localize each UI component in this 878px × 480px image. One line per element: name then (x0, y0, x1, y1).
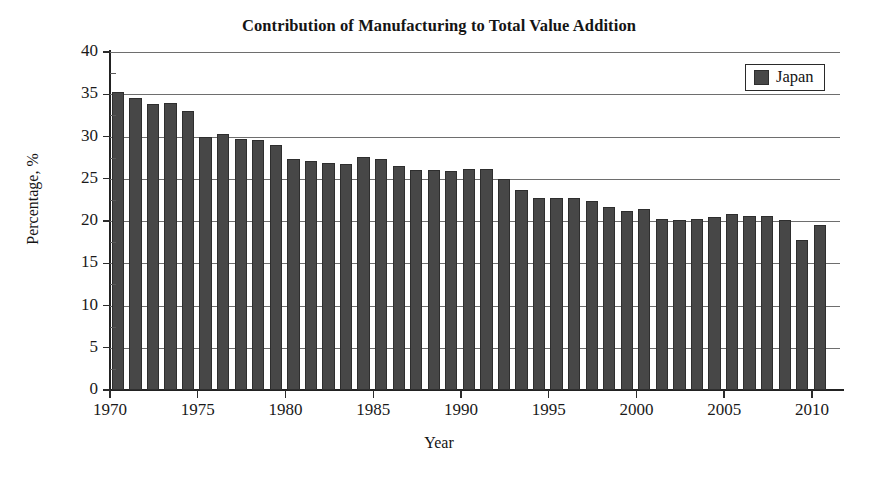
x-tick-label: 1980 (245, 400, 325, 420)
y-tick-label-wrap: 10 (50, 295, 98, 315)
y-tick-15 (103, 263, 110, 264)
y-tick-35 (103, 94, 110, 95)
bar (708, 217, 720, 390)
bar (410, 170, 422, 390)
bar (726, 214, 738, 390)
bar (586, 201, 598, 390)
bar (603, 207, 615, 390)
chart-legend: Japan (745, 64, 825, 91)
y-tick-5 (103, 347, 110, 348)
bar (796, 240, 808, 390)
x-tick-label: 1990 (421, 400, 501, 420)
bar (673, 220, 685, 390)
gridline-40 (110, 52, 840, 53)
bar (217, 134, 229, 390)
bar (428, 170, 440, 390)
y-axis-title: Percentage, % (24, 99, 42, 299)
y-tick-30 (103, 136, 110, 137)
bar (445, 171, 457, 390)
x-tick-label: 1970 (70, 400, 150, 420)
bar (498, 179, 510, 390)
japan-swatch-icon (754, 70, 769, 85)
y-minor-tick (110, 284, 116, 285)
bar (656, 219, 668, 390)
bar (743, 216, 755, 390)
y-tick-label: 20 (56, 210, 98, 230)
bar (322, 163, 334, 390)
y-tick-label-wrap: 40 (50, 41, 98, 61)
y-minor-tick (110, 115, 116, 116)
y-tick-label-wrap: 5 (50, 337, 98, 357)
y-tick-label: 0 (56, 379, 98, 399)
y-tick-label-wrap: 15 (50, 252, 98, 272)
bar (357, 157, 369, 390)
x-tick-2010 (811, 390, 812, 398)
x-tick-label: 1995 (509, 400, 589, 420)
bar (182, 111, 194, 390)
y-tick-20 (103, 220, 110, 221)
y-tick-label-wrap: 30 (50, 126, 98, 146)
bar (252, 140, 264, 390)
bar (199, 137, 211, 391)
legend-label-japan: Japan (776, 69, 814, 86)
bar (375, 159, 387, 390)
x-axis-title: Year (0, 434, 878, 452)
bar (761, 216, 773, 390)
bar (463, 169, 475, 390)
x-tick-1985 (373, 390, 374, 398)
y-tick-label-wrap: 35 (50, 83, 98, 103)
x-tick-label: 1985 (333, 400, 413, 420)
x-tick-1975 (197, 390, 198, 398)
y-tick-label-wrap: 25 (50, 168, 98, 188)
x-tick-1970 (109, 390, 110, 398)
bar (287, 159, 299, 390)
y-tick-label: 30 (56, 126, 98, 146)
bar (691, 219, 703, 390)
gridline-35 (110, 94, 840, 95)
y-tick-label: 10 (56, 295, 98, 315)
x-tick-label: 2000 (596, 400, 676, 420)
y-minor-tick (110, 200, 116, 201)
bar (393, 166, 405, 390)
y-tick-label: 15 (56, 252, 98, 272)
bar (621, 211, 633, 390)
bar (533, 198, 545, 390)
bar (147, 104, 159, 390)
plot-area (110, 52, 840, 390)
bar (129, 98, 141, 390)
y-tick-40 (103, 51, 110, 52)
bar (814, 225, 826, 390)
x-tick-label: 1975 (158, 400, 238, 420)
bar (638, 209, 650, 390)
y-tick-label: 5 (56, 337, 98, 357)
x-tick-label: 2005 (684, 400, 764, 420)
bar (270, 145, 282, 390)
x-tick-label: 2010 (772, 400, 852, 420)
y-tick-label-wrap: 0 (50, 379, 98, 399)
y-minor-tick (110, 242, 116, 243)
x-tick-1995 (548, 390, 549, 398)
x-tick-2000 (636, 390, 637, 398)
chart-figure: Contribution of Manufacturing to Total V… (0, 0, 878, 480)
x-tick-1980 (285, 390, 286, 398)
y-tick-label: 35 (56, 83, 98, 103)
x-tick-2005 (723, 390, 724, 398)
bar (568, 198, 580, 390)
chart-title: Contribution of Manufacturing to Total V… (0, 16, 878, 36)
bar (515, 190, 527, 390)
bar (340, 164, 352, 390)
y-tick-25 (103, 178, 110, 179)
y-minor-tick (110, 158, 116, 159)
bar (235, 139, 247, 390)
bar (164, 103, 176, 390)
y-tick-10 (103, 305, 110, 306)
y-minor-tick (110, 73, 116, 74)
y-tick-label-wrap: 20 (50, 210, 98, 230)
bar (779, 220, 791, 390)
x-tick-1990 (460, 390, 461, 398)
bar (480, 169, 492, 390)
bar (550, 198, 562, 390)
bar (112, 92, 124, 390)
bar (305, 161, 317, 390)
y-minor-tick (110, 327, 116, 328)
